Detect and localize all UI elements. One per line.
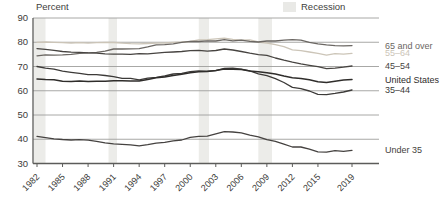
y-tick-label: 80 [17, 36, 28, 47]
x-tick-label: 1997 [148, 172, 169, 193]
y-tick-label: 60 [17, 85, 28, 96]
series-line-under-35 [37, 132, 352, 152]
x-tick-label: 2012 [276, 172, 297, 193]
homeownership-line-chart: Percent Recession 3040506070809019821985… [0, 0, 445, 198]
x-tick-label: 2006 [225, 172, 246, 193]
series-label-united-states: United States [385, 75, 439, 85]
chart-plot-area: 3040506070809019821985198819911994199720… [0, 0, 445, 198]
x-tick-label: 2019 [335, 172, 356, 193]
x-tick-label: 1988 [71, 172, 92, 193]
series-label-under-35: Under 35 [385, 145, 422, 155]
x-tick-label: 1994 [122, 172, 143, 193]
y-tick-label: 40 [17, 133, 28, 144]
y-tick-label: 90 [17, 12, 28, 23]
x-tick-label: 2015 [301, 172, 322, 193]
x-tick-label: 1985 [46, 172, 67, 193]
x-tick-label: 1982 [20, 172, 41, 193]
y-tick-label: 70 [17, 61, 28, 72]
series-label-55-64: 55–64 [385, 48, 410, 58]
x-tick-label: 2009 [250, 172, 271, 193]
series-label-35-44: 35–44 [385, 85, 410, 95]
y-tick-label: 30 [17, 158, 28, 169]
y-tick-label: 50 [17, 109, 28, 120]
x-tick-label: 2003 [199, 172, 220, 193]
x-tick-label: 1991 [97, 172, 118, 193]
series-label-45-54: 45–54 [385, 61, 410, 71]
x-tick-label: 2000 [173, 172, 194, 193]
